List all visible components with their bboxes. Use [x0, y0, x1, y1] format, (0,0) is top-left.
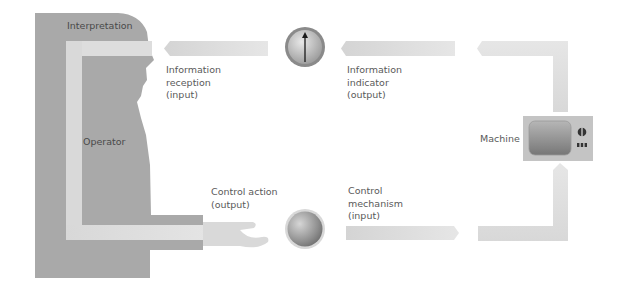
info-indicator-label: Information indicator (output)	[347, 64, 402, 102]
television-monitor-icon	[523, 116, 593, 161]
gauge-dial-icon	[285, 27, 325, 67]
hand-shape	[203, 222, 268, 247]
operator-label: Operator	[83, 136, 126, 149]
arrow-info-reception	[164, 41, 268, 56]
control-mechanism-label: Control mechanism (input)	[348, 185, 403, 223]
arrow-control-mechanism	[346, 226, 459, 240]
arrow-machine-top-corner	[477, 41, 568, 112]
interpretation-label: Interpretation	[67, 20, 133, 33]
knob-control-icon	[285, 209, 325, 249]
arrow-info-indicator	[341, 41, 455, 56]
arrow-machine-bottom-corner	[478, 163, 568, 241]
control-action-label: Control action (output)	[211, 186, 278, 211]
info-reception-label: Information reception (input)	[166, 64, 221, 102]
machine-label: Machine	[480, 133, 520, 146]
